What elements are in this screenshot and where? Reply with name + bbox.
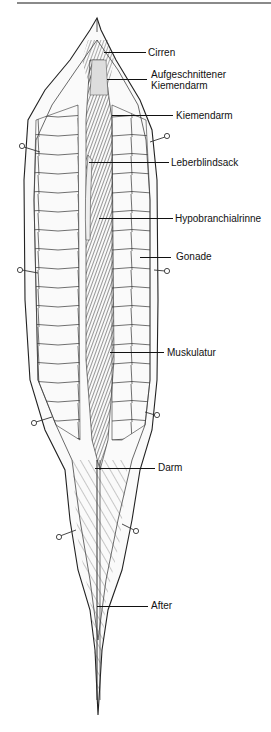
label-gonade: Gonade [176, 251, 212, 262]
label-cirren: Cirren [148, 47, 175, 58]
leader-gonade [140, 257, 171, 258]
leader-muskulatur [110, 352, 164, 353]
label-aufgeschnittener-kiemendarm: Aufgeschnittener Kiemendarm [151, 69, 226, 91]
label-kiemendarm: Kiemendarm [176, 110, 233, 121]
label-hypobranchialrinne: Hypobranchialrinne [175, 213, 261, 224]
leader-cirren [104, 52, 146, 53]
leader-leberblindsack [89, 162, 169, 163]
label-leberblindsack: Leberblindsack [171, 157, 238, 168]
leader-darm [95, 468, 155, 469]
leader-hypobranchialrinne [99, 218, 173, 219]
leader-aufgeschnittener-kiemendarm [107, 79, 147, 80]
label-muskulatur: Muskulatur [167, 347, 216, 358]
leader-after [97, 606, 148, 607]
leader-kiemendarm [112, 115, 173, 116]
label-darm: Darm [158, 462, 182, 473]
label-after: After [151, 600, 172, 611]
